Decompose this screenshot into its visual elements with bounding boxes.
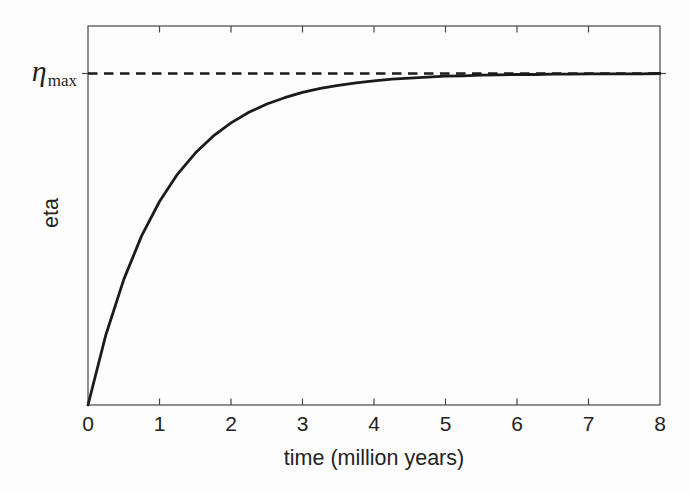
x-tick-label: 0 <box>74 412 102 436</box>
x-tick-label: 1 <box>146 412 174 436</box>
x-ticks-bottom <box>160 399 589 406</box>
y-axis-label: eta <box>39 198 64 228</box>
x-axis-tick-labels: 0 1 2 3 4 5 6 7 8 <box>0 412 690 438</box>
x-tick-label: 2 <box>217 412 245 436</box>
eta-curve <box>88 74 660 406</box>
eta-max-subscript: max <box>48 71 77 90</box>
x-ticks-top <box>160 26 589 33</box>
plot-frame <box>88 26 660 405</box>
x-tick-label: 3 <box>289 412 317 436</box>
x-tick-label: 6 <box>503 412 531 436</box>
x-axis-label: time (million years) <box>88 446 660 471</box>
x-tick-label: 5 <box>432 412 460 436</box>
x-tick-label: 7 <box>575 412 603 436</box>
eta-vs-time-figure: ηmax eta 0 1 2 3 4 5 6 7 8 time (million… <box>0 0 690 492</box>
x-tick-label: 4 <box>360 412 388 436</box>
x-tick-label: 8 <box>646 412 674 436</box>
eta-symbol: η <box>32 54 47 87</box>
eta-max-annotation: ηmax <box>18 54 76 88</box>
